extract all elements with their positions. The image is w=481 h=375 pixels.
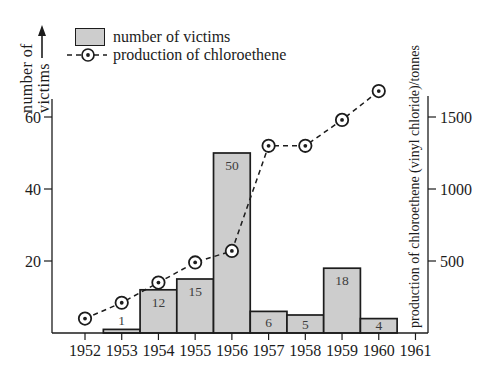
production-marker-dot [267, 144, 271, 148]
up-arrow-icon [37, 25, 47, 59]
legend-line-circle-icon [66, 47, 108, 63]
year-label-1961: 1961 [399, 342, 431, 359]
legend-label-victims: number of victims [113, 28, 230, 46]
production-marker-dot [303, 144, 307, 148]
right-axis-title: production of chloroethene (vinyl chlori… [404, 36, 425, 338]
chart-figure: 1121550651842040605001000150019521953195… [0, 0, 481, 375]
production-marker-dot [193, 261, 197, 265]
year-label-1957: 1957 [253, 342, 285, 359]
year-label-1952: 1952 [69, 342, 101, 359]
legend-label-production: production of chloroethene [113, 46, 286, 63]
right-tick-label-500: 500 [440, 253, 464, 270]
bar-label-1953: 1 [118, 313, 125, 328]
right-tick-label-1000: 1000 [440, 181, 472, 198]
bar-label-1955: 15 [188, 284, 202, 299]
bar-label-1956: 50 [225, 158, 239, 173]
production-marker-dot [230, 249, 234, 253]
bar-label-1960: 4 [375, 318, 382, 333]
production-marker-dot [377, 89, 381, 93]
year-label-1958: 1958 [289, 342, 321, 359]
production-marker-dot [83, 317, 87, 321]
bar-1956 [214, 153, 251, 333]
production-marker-dot [340, 118, 344, 122]
year-label-1960: 1960 [363, 342, 395, 359]
bar-label-1959: 18 [335, 273, 349, 288]
year-label-1959: 1959 [326, 342, 358, 359]
left-axis-title-line1: number of [18, 27, 35, 113]
bar-label-1954: 12 [152, 295, 166, 310]
year-label-1955: 1955 [179, 342, 211, 359]
right-tick-label-1500: 1500 [440, 109, 472, 126]
left-tick-label-40: 40 [25, 181, 41, 198]
legend-bar-swatch [75, 28, 105, 46]
bar-label-1957: 6 [265, 315, 272, 330]
year-label-1953: 1953 [106, 342, 138, 359]
production-marker-dot [157, 281, 161, 285]
production-marker-dot [120, 301, 124, 305]
bar-label-1958: 5 [302, 317, 309, 332]
year-label-1956: 1956 [216, 342, 248, 359]
left-tick-label-20: 20 [25, 253, 41, 270]
year-label-1954: 1954 [142, 342, 174, 359]
